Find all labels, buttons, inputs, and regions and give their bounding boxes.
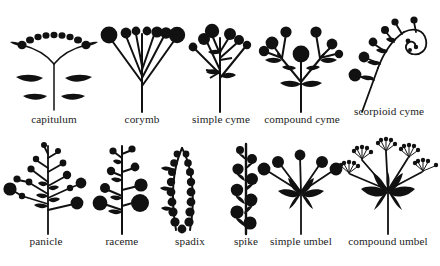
capitulum-drawing bbox=[0, 8, 108, 112]
diagram-panicle: panicle bbox=[0, 138, 92, 260]
diagram-capitulum: capitulum bbox=[0, 8, 108, 132]
compound-umbel-drawing bbox=[336, 138, 440, 234]
caption-corymb: corymb bbox=[96, 114, 188, 125]
diagram-simple-umbel: simple umbel bbox=[256, 138, 346, 260]
caption-scorpioid-cyme: scorpioid cyme bbox=[338, 106, 440, 117]
inflorescence-figure: capitulum corymb bbox=[0, 0, 440, 266]
diagram-scorpioid-cyme: scorpioid cyme bbox=[338, 0, 440, 132]
raceme-drawing bbox=[82, 138, 162, 234]
diagram-compound-umbel: compound umbel bbox=[336, 138, 440, 260]
corymb-drawing bbox=[96, 8, 188, 112]
panicle-drawing bbox=[0, 138, 92, 234]
simple-umbel-drawing bbox=[256, 138, 346, 234]
caption-panicle: panicle bbox=[0, 236, 92, 247]
caption-capitulum: capitulum bbox=[0, 114, 108, 125]
diagram-compound-cyme: compound cyme bbox=[252, 8, 352, 132]
diagram-raceme: raceme bbox=[82, 138, 162, 260]
compound-cyme-drawing bbox=[252, 8, 352, 112]
caption-simple-umbel: simple umbel bbox=[256, 236, 346, 247]
caption-compound-cyme: compound cyme bbox=[252, 114, 352, 125]
diagram-corymb: corymb bbox=[96, 8, 188, 132]
caption-raceme: raceme bbox=[82, 236, 162, 247]
caption-compound-umbel: compound umbel bbox=[336, 236, 440, 247]
scorpioid-cyme-drawing bbox=[338, 0, 440, 112]
